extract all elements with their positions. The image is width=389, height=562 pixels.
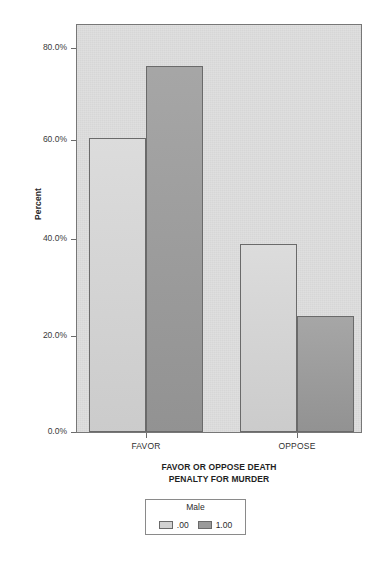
x-axis-title: FAVOR OR OPPOSE DEATH PENALTY FOR MURDER (76, 462, 362, 485)
plot-area (76, 24, 362, 433)
x-tick-favor (146, 433, 147, 438)
bar-chart: Percent 80.0% 60.0% 40.0% 20.0% 0.0% FAV… (0, 0, 389, 562)
bar-oppose-100 (297, 316, 354, 432)
x-axis-title-line-2: PENALTY FOR MURDER (76, 474, 362, 486)
y-tick-label-80: 80.0% (7, 42, 67, 52)
legend-swatch-icon-00 (159, 521, 173, 529)
x-axis-title-line-1: FAVOR OR OPPOSE DEATH (76, 462, 362, 474)
x-category-label-oppose: OPPOSE (237, 441, 357, 451)
x-tick-oppose (297, 433, 298, 438)
y-axis-title: Percent (33, 174, 47, 234)
y-tick-label-0: 0.0% (7, 426, 67, 436)
y-tick-label-60: 60.0% (7, 134, 67, 144)
bar-oppose-00 (240, 244, 297, 432)
y-tick-label-20: 20.0% (7, 330, 67, 340)
y-tick-label-40: 40.0% (7, 233, 67, 243)
x-category-label-favor: FAVOR (86, 441, 206, 451)
legend-item-100[interactable]: 1.00 (198, 520, 233, 530)
legend-item-00[interactable]: .00 (159, 520, 189, 530)
bar-favor-100 (146, 66, 203, 432)
legend-label-00: .00 (177, 520, 189, 530)
legend-title: Male (146, 502, 245, 512)
legend-swatch-icon-100 (198, 521, 212, 529)
legend-label-100: 1.00 (216, 520, 233, 530)
legend-items: .00 1.00 (146, 518, 245, 532)
legend: Male .00 1.00 (145, 499, 246, 535)
bar-favor-00 (89, 138, 146, 432)
